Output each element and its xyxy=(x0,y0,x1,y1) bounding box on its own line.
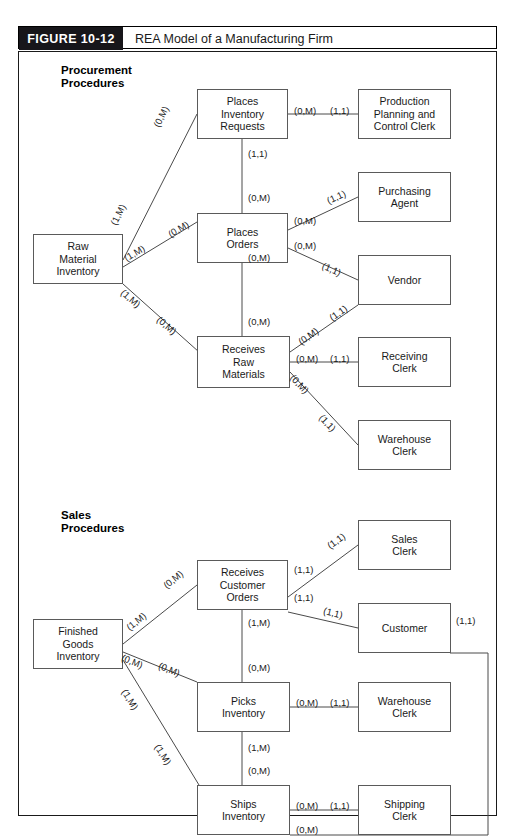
diagram-canvas: Procurement Procedures Sales Procedures … xyxy=(18,51,497,816)
cardinality-po-rrm-top: (0,M) xyxy=(248,252,270,263)
cardinality-rco-pi-top: (1,M) xyxy=(248,617,270,628)
entity-receives-customer-orders[interactable]: Receives Customer Orders xyxy=(197,560,288,610)
cardinality-rrm-rc-right: (1,1) xyxy=(330,353,350,364)
entity-raw-material-inventory[interactable]: Raw Material Inventory xyxy=(33,234,123,284)
cardinality-pir-ppc-right: (1,1) xyxy=(330,105,350,116)
entity-places-inventory-requests[interactable]: Places Inventory Requests xyxy=(197,89,288,139)
entity-places-orders[interactable]: Places Orders xyxy=(197,213,288,263)
line-rmi-pir xyxy=(123,114,197,260)
cardinality-pir-po-top: (1,1) xyxy=(248,148,268,159)
cardinality-rco-sc-left: (1,1) xyxy=(294,564,314,575)
cardinality-po-pa-left: (0,M) xyxy=(294,215,316,226)
entity-production-planning-clerk[interactable]: Production Planning and Control Clerk xyxy=(358,89,451,139)
cardinality-po-rrm-bottom: (0,M) xyxy=(248,316,270,327)
entity-finished-goods-inventory[interactable]: Finished Goods Inventory xyxy=(33,619,123,669)
entity-receives-raw-materials[interactable]: Receives Raw Materials xyxy=(197,336,290,388)
entity-vendor[interactable]: Vendor xyxy=(358,255,451,305)
cardinality-pi-wc-right: (1,1) xyxy=(330,697,350,708)
section-title-procurement: Procurement Procedures xyxy=(61,64,132,90)
entity-customer[interactable]: Customer xyxy=(358,603,451,653)
cardinality-pi-wc-left: (0,M) xyxy=(296,697,318,708)
cardinality-rco-customer-left: (1,1) xyxy=(294,592,314,603)
entity-sales-clerk[interactable]: Sales Clerk xyxy=(358,520,451,570)
cardinality-rrm-rc-left: (0,M) xyxy=(296,353,318,364)
cardinality-pir-po-bottom: (0,M) xyxy=(248,192,270,203)
entity-warehouse-clerk-sales[interactable]: Warehouse Clerk xyxy=(358,682,451,732)
entity-picks-inventory[interactable]: Picks Inventory xyxy=(197,682,290,732)
cardinality-po-vendor-left: (0,M) xyxy=(294,240,316,251)
cardinality-si-shc-left: (0,M) xyxy=(296,800,318,811)
figure-header: FIGURE 10-12 REA Model of a Manufacturin… xyxy=(18,26,497,49)
figure-title: REA Model of a Manufacturing Firm xyxy=(135,27,333,50)
cardinality-pi-si-top: (1,M) xyxy=(248,742,270,753)
cardinality-pi-si-bottom: (0,M) xyxy=(248,765,270,776)
cardinality-customer-si: (1,1) xyxy=(456,615,476,626)
figure-container: FIGURE 10-12 REA Model of a Manufacturin… xyxy=(18,26,497,816)
cardinality-pir-ppc-left: (0,M) xyxy=(294,105,316,116)
entity-receiving-clerk[interactable]: Receiving Clerk xyxy=(358,337,451,387)
figure-number: FIGURE 10-12 xyxy=(19,27,123,50)
cardinality-rco-pi-bottom: (0,M) xyxy=(248,662,270,673)
entity-ships-inventory[interactable]: Ships Inventory xyxy=(197,785,290,835)
entity-purchasing-agent[interactable]: Purchasing Agent xyxy=(358,172,451,222)
line-fgi-si xyxy=(123,660,199,785)
cardinality-si-shc-right: (1,1) xyxy=(330,800,350,811)
entity-warehouse-clerk-procurement[interactable]: Warehouse Clerk xyxy=(358,420,451,470)
entity-shipping-clerk[interactable]: Shipping Clerk xyxy=(358,785,451,835)
cardinality-si-customer: (0,M) xyxy=(296,824,318,835)
section-title-sales: Sales Procedures xyxy=(61,509,124,535)
